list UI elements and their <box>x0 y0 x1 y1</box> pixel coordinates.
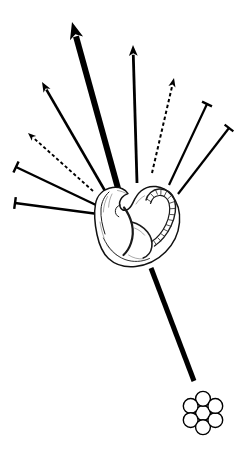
tbar-left-lower-bar <box>14 197 16 209</box>
cell-5 <box>208 413 223 428</box>
dashed-arrow-up-right <box>152 78 175 173</box>
thick-solid-arrow-up-left <box>70 22 119 192</box>
thick-line-to-cell-cluster-shaft <box>151 268 194 381</box>
solid-arrow-up-vertical-head <box>129 45 138 56</box>
tbar-right-lower <box>178 125 233 194</box>
tbar-left-upper-shaft <box>16 167 96 205</box>
tbar-right-lower-shaft <box>178 128 229 194</box>
solid-arrow-up-vertical <box>129 45 138 183</box>
connector-layer <box>13 22 233 381</box>
thick-solid-arrow-up-left-shaft <box>76 36 119 192</box>
figure-canvas <box>0 0 250 452</box>
dashed-arrow-up-right-head <box>168 78 175 88</box>
cell-cluster <box>183 391 222 434</box>
tbar-left-lower-shaft <box>15 203 98 214</box>
cell-2 <box>183 399 198 414</box>
dashed-arrow-up-left-shaft <box>33 138 93 191</box>
cell-6 <box>208 399 223 414</box>
tbar-right-upper-shaft <box>169 104 207 185</box>
thick-line-to-cell-cluster <box>151 268 194 381</box>
dashed-arrow-up-right-shaft <box>152 86 172 173</box>
embryo-illustration <box>95 186 180 266</box>
tbar-right-upper <box>169 102 212 185</box>
solid-arrow-up-vertical-shaft <box>133 55 137 183</box>
embryo-signaling-diagram <box>0 0 250 452</box>
solid-arrow-up-left-steep <box>42 82 108 196</box>
dashed-arrow-up-left <box>28 133 93 191</box>
solid-arrow-up-left-steep-shaft <box>46 90 108 196</box>
